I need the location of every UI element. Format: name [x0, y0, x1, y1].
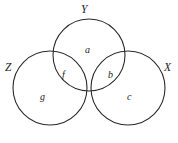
set-label-X: X: [164, 62, 171, 74]
region-label-g: g: [40, 92, 45, 102]
region-label-f: f: [62, 70, 65, 80]
region-label-c: c: [127, 92, 131, 102]
set-circle-Y: [53, 19, 125, 91]
set-label-Z: Z: [5, 62, 11, 74]
region-label-a: a: [85, 45, 90, 55]
venn-diagram-figure: Y Z X a b c f g: [0, 0, 178, 143]
region-label-b: b: [108, 70, 113, 80]
set-label-Y: Y: [81, 4, 87, 16]
venn-circles-svg: [0, 0, 178, 143]
